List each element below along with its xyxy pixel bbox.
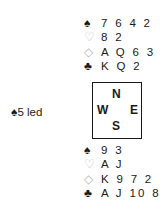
heart-icon: ♡ (84, 157, 101, 171)
north-clubs: K Q 2 (101, 60, 142, 72)
north-spades-row: ♠7 6 4 2 (84, 16, 155, 30)
north-hand: ♠7 6 4 2 ♡8 2 ◇A Q 6 3 ♣K Q 2 (84, 16, 155, 73)
south-spades-row: ♠9 3 (84, 143, 165, 157)
diamond-icon: ◇ (84, 172, 101, 186)
south-diamonds-row: ◇K 9 7 2 (84, 172, 165, 186)
club-icon: ♣ (84, 59, 101, 73)
south-clubs-row: ♣A J 10 8 6 (84, 186, 165, 200)
south-diamonds: K 9 7 2 (101, 173, 154, 185)
compass-south: S (112, 119, 120, 133)
opening-lead: ♠5 led (11, 105, 42, 119)
south-hand: ♠9 3 ♡A J ◇K 9 7 2 ♣A J 10 8 6 (84, 143, 165, 200)
lead-text: 5 led (17, 106, 42, 118)
north-diamonds-row: ◇A Q 6 3 (84, 45, 155, 59)
spade-icon: ♠ (84, 16, 101, 30)
diamond-icon: ◇ (84, 45, 101, 59)
north-clubs-row: ♣K Q 2 (84, 59, 155, 73)
north-hearts: 8 2 (101, 31, 124, 43)
compass-north: N (112, 87, 121, 101)
south-hearts: A J (101, 158, 124, 170)
compass-box: N W E S (92, 82, 142, 139)
south-clubs: A J 10 8 6 (101, 187, 165, 199)
north-spades: 7 6 4 2 (101, 17, 152, 29)
heart-icon: ♡ (84, 30, 101, 44)
south-hearts-row: ♡A J (84, 157, 165, 171)
north-hearts-row: ♡8 2 (84, 30, 155, 44)
south-spades: 9 3 (101, 144, 124, 156)
north-diamonds: A Q 6 3 (101, 46, 155, 58)
club-icon: ♣ (84, 186, 101, 200)
compass-east: E (130, 103, 138, 117)
compass-west: W (97, 103, 108, 117)
spade-icon: ♠ (84, 143, 101, 157)
